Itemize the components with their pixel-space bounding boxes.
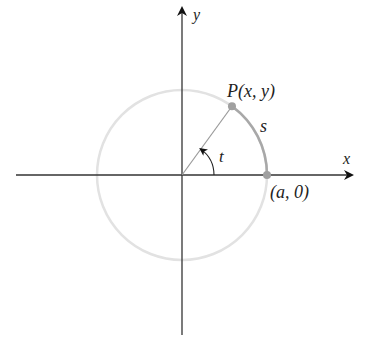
diagram-canvas: y x P(x, y) (a, 0) s t <box>0 0 378 354</box>
radius-line <box>182 106 232 175</box>
angle-t-arrow <box>201 149 214 175</box>
point-P-label: P(x, y) <box>226 81 275 102</box>
point-a0-label: (a, 0) <box>270 182 309 203</box>
y-axis-label: y <box>191 6 201 24</box>
point-P-coords: (x, y) <box>238 81 275 102</box>
angle-t-label: t <box>219 147 225 166</box>
x-axis-label: x <box>342 150 350 167</box>
point-P-name: P <box>226 81 238 101</box>
point-P <box>228 102 236 110</box>
point-a0 <box>263 171 271 179</box>
arc-s-label: s <box>260 116 267 136</box>
